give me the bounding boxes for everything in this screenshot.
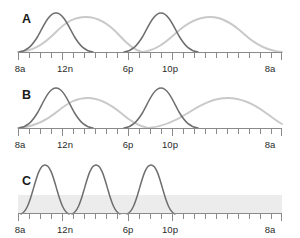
panel-c-ticks xyxy=(19,214,282,221)
panel-b-plot: B xyxy=(0,76,300,152)
panel-a-dark-curve-2 xyxy=(124,13,198,52)
panel-a-plot: A xyxy=(0,0,300,76)
panel-a-label: A xyxy=(22,12,31,26)
panel-b-tick-label-3: 10p xyxy=(162,139,178,150)
panel-a-tick-label-1: 12n xyxy=(57,63,73,74)
panel-c-tick-label-0: 8a xyxy=(15,224,26,235)
panel-c-label: C xyxy=(22,174,31,188)
panel-a-light-curve-1 xyxy=(18,17,142,52)
panel-b-ticks xyxy=(19,129,282,136)
panel-c-tick-label-1: 12n xyxy=(57,224,73,235)
panel-b: B xyxy=(0,76,300,152)
panel-b-tick-label-2: 6p xyxy=(123,139,134,150)
panel-a-tick-label-4: 8a xyxy=(265,63,276,74)
figure-root: A xyxy=(0,0,300,238)
panel-b-tick-label-1: 12n xyxy=(57,139,73,150)
panel-c-tick-label-3: 10p xyxy=(162,224,178,235)
panel-a-ticks xyxy=(19,53,282,60)
panel-c: C xyxy=(0,152,300,238)
panel-a-tick-label-2: 6p xyxy=(123,63,134,74)
panel-c-plot: C xyxy=(0,152,300,238)
panel-c-tick-label-2: 6p xyxy=(123,224,134,235)
panel-c-shaded-band xyxy=(18,195,282,213)
panel-a: A xyxy=(0,0,300,76)
panel-b-dark-curve-2 xyxy=(124,88,198,128)
panel-b-light-curve-2 xyxy=(148,98,282,128)
panel-a-tick-label-0: 8a xyxy=(15,63,26,74)
panel-b-label: B xyxy=(22,88,31,102)
panel-c-tick-label-4: 8a xyxy=(265,224,276,235)
panel-a-tick-label-3: 10p xyxy=(162,63,178,74)
panel-b-tick-label-4: 8a xyxy=(265,139,276,150)
panel-a-light-curve-2 xyxy=(142,17,282,52)
panel-b-tick-label-0: 8a xyxy=(15,139,26,150)
